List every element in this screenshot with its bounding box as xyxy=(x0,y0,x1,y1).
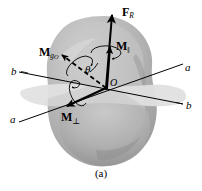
label-Mperp-subscript: ⊥ xyxy=(72,117,80,126)
label-Mpar-subscript: ‖ xyxy=(127,46,129,55)
label-Mpar-symbol: M xyxy=(116,39,127,53)
label-moment-perpendicular: M⊥ xyxy=(61,111,80,123)
label-axis-b-left: b xyxy=(11,66,17,77)
label-origin: O xyxy=(110,78,117,88)
figure-caption: (a) xyxy=(0,168,202,179)
label-moment-parallel: M‖ xyxy=(116,40,130,52)
label-moment-gO: MgO xyxy=(39,46,59,58)
figure-svg xyxy=(0,0,202,191)
section-plane xyxy=(20,84,186,106)
label-resultant-force: FR xyxy=(122,6,134,18)
label-Mperp-symbol: M xyxy=(61,110,72,124)
label-angle-theta: θ xyxy=(85,64,90,75)
label-axis-a-left: a xyxy=(10,114,16,125)
label-FR-subscript: R xyxy=(129,11,134,20)
figure-container: FR M‖ MgO M⊥ θ O a a b b (a) xyxy=(0,0,202,191)
label-axis-a-right: a xyxy=(185,62,191,73)
origin-point-marker xyxy=(104,86,108,90)
label-axis-b-right: b xyxy=(186,100,192,111)
label-MgO-symbol: M xyxy=(39,45,50,59)
label-MgO-subscript2: O xyxy=(54,53,59,60)
